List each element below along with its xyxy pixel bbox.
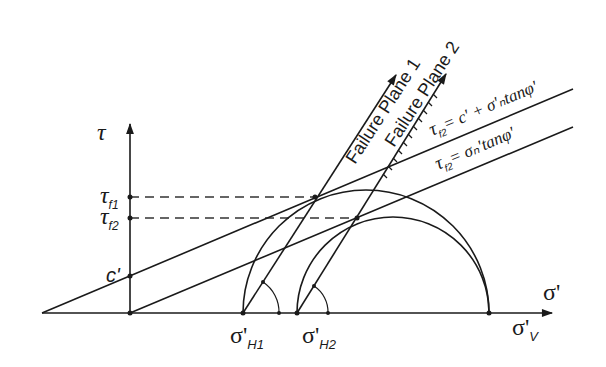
angle-arc-1 [263,282,279,313]
mohr-circle-diagram: τ σ' τf1 τf2 c' σ'H1 σ'H2 σ'V Failure Pl… [0,0,606,367]
envelope-label-cohesion: τf2= c' + σ'ₙtanφ' [425,75,541,142]
sigma-v-label: σ'V [512,314,539,344]
mohr-circle-1 [243,190,489,313]
c-prime-label: c' [106,264,121,286]
sigma-axis-label: σ' [543,279,560,305]
sigma-h2-label: σ'H2 [302,322,337,352]
sigma-h1-label: σ'H1 [230,322,264,352]
tau-axis-label: τ [97,119,107,145]
angle-arc-2 [314,286,328,313]
envelope-with-cohesion [42,89,573,313]
